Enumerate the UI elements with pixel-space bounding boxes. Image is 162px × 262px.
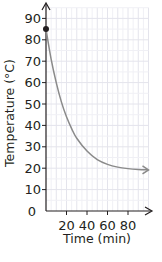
y-tick-label: 10 [24,182,41,197]
y-tick-label: 90 [24,11,41,26]
y-tick-label: 40 [24,118,41,133]
cooling-curve-chart: 102030405060708090 20406080 0 Time (min)… [0,0,162,262]
y-tick-label: 70 [24,54,41,69]
x-axis [46,207,152,215]
y-axis-title: Temperature (°C) [2,59,17,168]
x-axis-title: Time (min) [62,231,131,246]
y-tick-label: 80 [24,32,41,47]
origin-label: 0 [28,204,36,219]
x-ticks: 20406080 [58,211,136,233]
y-axis [42,3,50,211]
grid [46,8,149,211]
start-point-marker [43,26,49,32]
y-tick-label: 50 [24,97,41,112]
y-tick-label: 60 [24,75,41,90]
y-ticks: 102030405060708090 [24,11,46,197]
y-tick-label: 30 [24,139,41,154]
y-tick-label: 20 [24,161,41,176]
